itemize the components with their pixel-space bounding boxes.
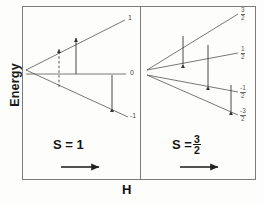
level-label-minus1half: -1 2 — [240, 85, 246, 99]
level-line-minus3half — [147, 75, 238, 115]
minus3half-num: -3 — [240, 108, 246, 115]
level-label-minus3half: -3 2 — [240, 108, 246, 122]
level-label-plus3half: 3 2 — [241, 7, 245, 21]
level-line-minus1 — [26, 70, 128, 117]
right-panel-transitions — [183, 36, 231, 111]
caption-spin-one: S = 1 — [53, 137, 84, 152]
caption-left-prefix: S = — [53, 137, 73, 152]
level-label-plus1half: 1 2 — [241, 46, 245, 60]
zeeman-splitting-figure: Energy — [0, 0, 264, 205]
level-line-minus1half — [147, 75, 238, 92]
minus1half-num: -1 — [240, 85, 246, 92]
caption-right-fraction: 32 — [193, 134, 201, 156]
caption-left-value: 1 — [77, 137, 84, 152]
left-panel-levels — [26, 20, 128, 117]
level-label-zero: 0 — [130, 69, 134, 76]
level-line-plus1 — [26, 20, 125, 70]
caption-spin-three-halves: S =32 — [172, 134, 201, 156]
level-label-plus1: 1 — [128, 14, 132, 21]
x-axis-label: H — [122, 182, 131, 197]
plot-lines — [0, 0, 264, 205]
right-panel-levels — [147, 14, 238, 115]
caption-right-prefix: S = — [172, 137, 192, 152]
level-label-minus1: -1 — [130, 112, 136, 119]
